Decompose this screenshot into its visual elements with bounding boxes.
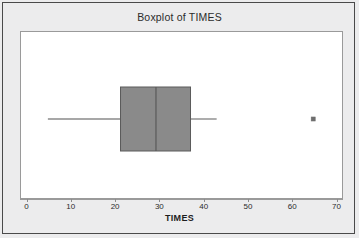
x-tick-label: 10 (66, 202, 75, 211)
boxplot-canvas (21, 32, 344, 200)
x-tick-label: 30 (155, 202, 164, 211)
x-tick-label: 40 (199, 202, 208, 211)
x-tick-label: 60 (288, 202, 297, 211)
boxplot-figure: Boxplot of TIMES 010203040506070 TIMES (0, 0, 359, 238)
chart-title: Boxplot of TIMES (0, 11, 359, 23)
outlier-marker (311, 117, 315, 121)
x-axis-label: TIMES (0, 213, 359, 223)
plot-area (20, 31, 343, 199)
x-tick-label: 70 (332, 202, 341, 211)
x-tick-label: 50 (244, 202, 253, 211)
x-tick-label: 0 (24, 202, 28, 211)
x-tick-label: 20 (111, 202, 120, 211)
x-axis-line (20, 199, 343, 200)
boxplot-group (48, 87, 315, 151)
